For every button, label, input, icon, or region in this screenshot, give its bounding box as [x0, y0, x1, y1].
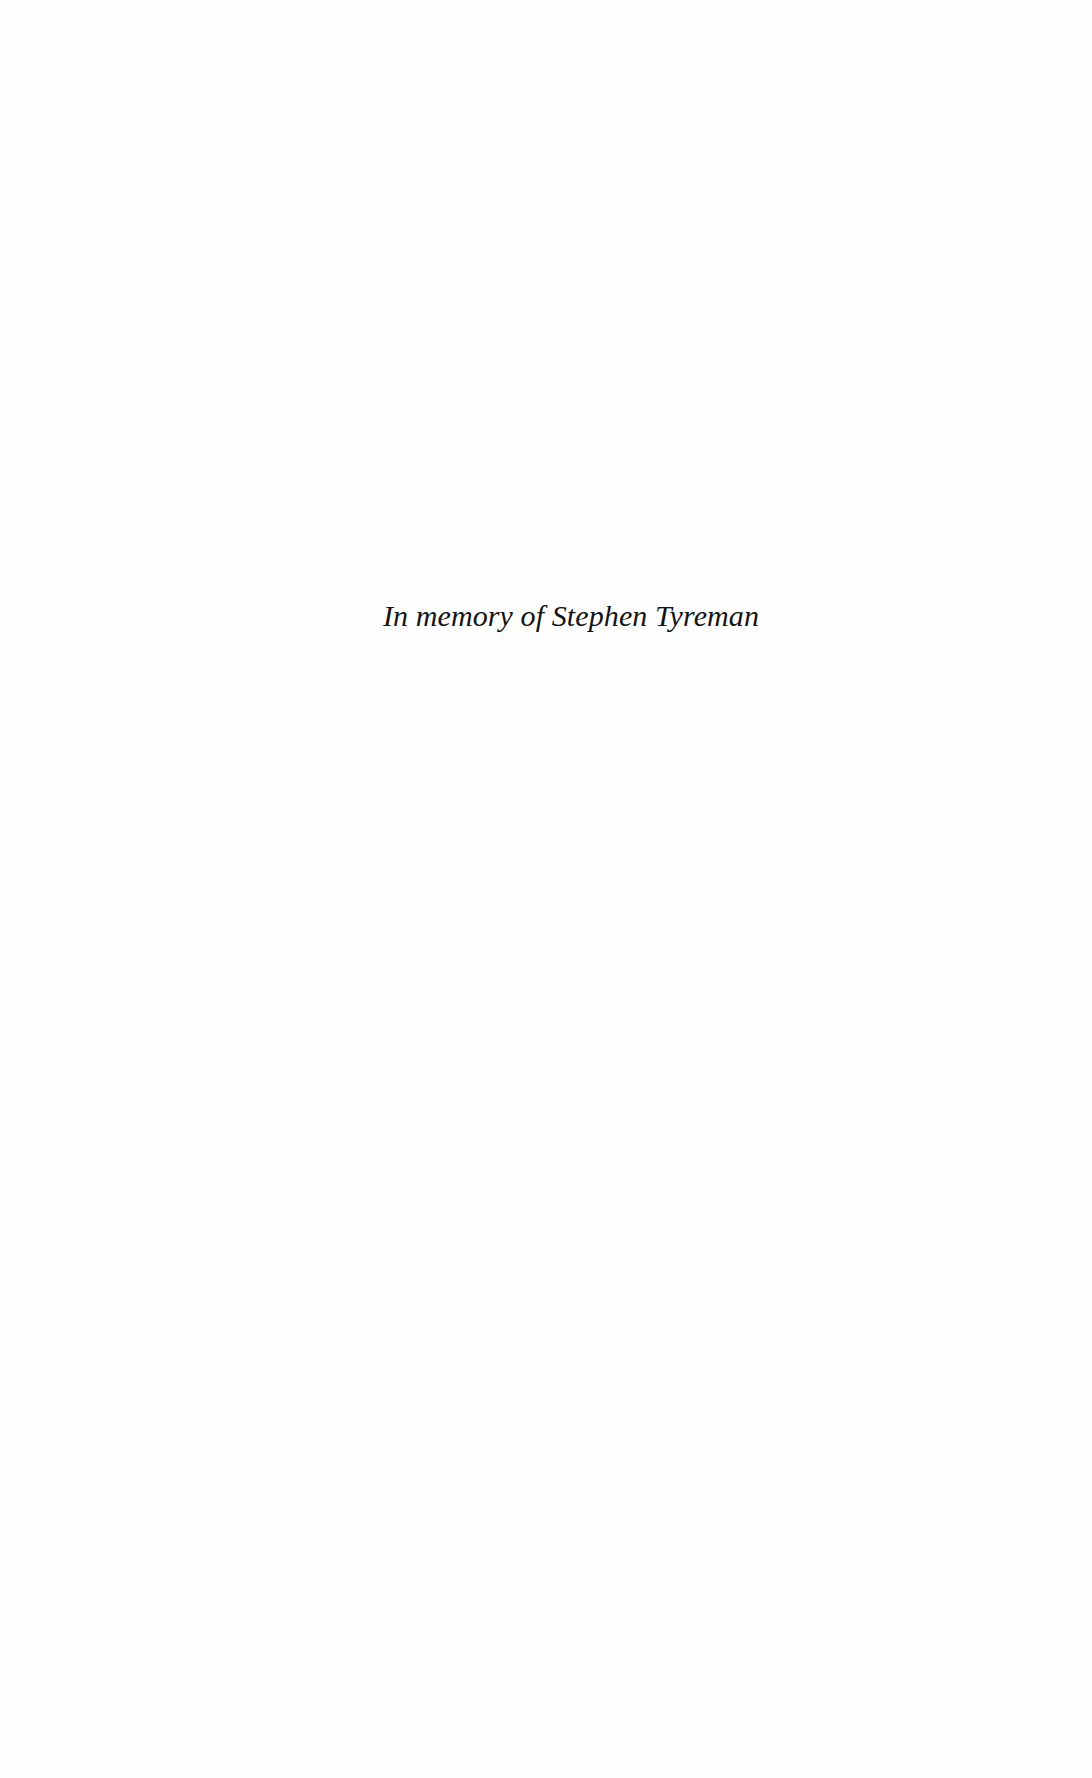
- dedication-text: In memory of Stephen Tyreman: [0, 598, 1092, 634]
- book-page: In memory of Stephen Tyreman: [0, 0, 1092, 1778]
